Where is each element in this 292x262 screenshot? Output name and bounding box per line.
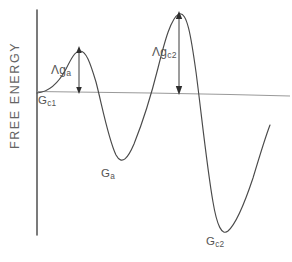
g-symbol: G <box>38 94 47 106</box>
reference-baseline <box>37 92 290 97</box>
g-symbol: G <box>206 235 215 247</box>
label-g-c2: Gc2 <box>206 236 224 248</box>
g-symbol: G <box>101 167 110 179</box>
delta-g-a-arrow <box>76 46 82 94</box>
diagram-canvas <box>0 0 292 262</box>
subscript: a <box>110 172 115 181</box>
label-g-c1: Gc1 <box>38 95 56 107</box>
y-axis-title: FREE ENERGY <box>8 30 26 160</box>
free-energy-diagram: FREE ENERGY Λga Gc1 Λgc2 Ga Gc2 <box>0 0 292 262</box>
label-delta-g-c2: Λgc2 <box>152 46 177 58</box>
label-g-a: Ga <box>101 168 115 180</box>
subscript: a <box>66 68 71 78</box>
subscript: c2 <box>215 240 224 249</box>
label-delta-g-a: Λga <box>51 64 71 76</box>
subscript: c1 <box>47 99 56 108</box>
subscript: c2 <box>167 50 177 60</box>
